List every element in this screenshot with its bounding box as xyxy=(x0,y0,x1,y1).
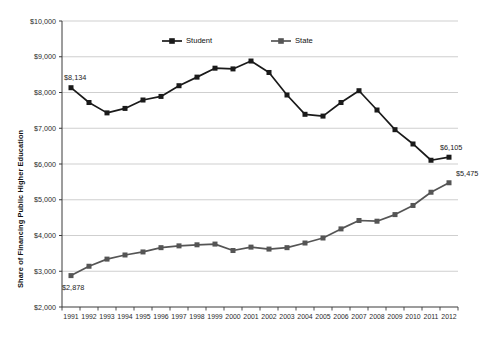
data-point-state-1991 xyxy=(69,273,74,278)
data-point-state-2005 xyxy=(321,236,326,241)
data-point-student-2011 xyxy=(429,158,434,163)
data-point-state-2006 xyxy=(339,226,344,231)
state-start-label: $2,878 xyxy=(62,283,84,292)
x-axis-ticks xyxy=(62,307,458,311)
data-point-student-1993 xyxy=(105,110,110,115)
data-series-layer xyxy=(69,59,452,279)
data-point-state-1994 xyxy=(123,252,128,257)
data-point-state-1997 xyxy=(177,243,182,248)
x-tick-label-2012: 2012 xyxy=(438,313,460,320)
data-point-student-2005 xyxy=(321,114,326,119)
legend-markers xyxy=(162,38,291,44)
legend-label-student[interactable]: Student xyxy=(186,36,212,45)
data-point-student-2004 xyxy=(303,112,308,117)
data-point-student-1995 xyxy=(141,98,146,103)
data-point-student-2001 xyxy=(249,59,254,64)
data-point-state-2012 xyxy=(447,180,452,185)
data-point-state-1998 xyxy=(195,242,200,247)
legend-marker-student xyxy=(169,38,175,44)
data-point-state-2007 xyxy=(357,218,362,223)
chart-container: Share of Financing Public Higher Educati… xyxy=(0,0,492,338)
data-point-student-2000 xyxy=(231,66,236,71)
data-point-state-1995 xyxy=(141,249,146,254)
data-point-state-2004 xyxy=(303,241,308,246)
data-point-state-2009 xyxy=(393,212,398,217)
data-point-student-1999 xyxy=(213,66,218,71)
y-tick-label-8000: $8,000 xyxy=(0,88,56,97)
legend-label-state[interactable]: State xyxy=(295,36,313,45)
data-point-student-1997 xyxy=(177,83,182,88)
data-point-student-1991 xyxy=(69,85,74,90)
data-point-student-2007 xyxy=(357,88,362,93)
data-point-state-2002 xyxy=(267,247,272,252)
state-end-label: $5,475 xyxy=(456,169,478,178)
legend-marker-state xyxy=(278,38,284,44)
data-point-state-1992 xyxy=(87,264,92,269)
data-point-state-1993 xyxy=(105,257,110,262)
data-point-state-2010 xyxy=(411,203,416,208)
data-point-state-1999 xyxy=(213,242,218,247)
data-point-state-1996 xyxy=(159,245,164,250)
data-point-student-1998 xyxy=(195,75,200,80)
data-point-state-2003 xyxy=(285,245,290,250)
y-axis-title: Share of Financing Public Higher Educati… xyxy=(16,130,25,288)
student-end-label: $6,105 xyxy=(440,143,462,152)
data-point-student-2009 xyxy=(393,127,398,132)
data-point-state-2008 xyxy=(375,219,380,224)
data-point-student-1996 xyxy=(159,94,164,99)
y-tick-label-2000: $2,000 xyxy=(0,303,56,312)
gridlines xyxy=(62,21,458,271)
footer-cutoff-text xyxy=(48,330,448,337)
data-point-student-1994 xyxy=(123,106,128,111)
data-point-student-2006 xyxy=(339,100,344,105)
y-tick-label-9000: $9,000 xyxy=(0,52,56,61)
data-point-student-2002 xyxy=(267,70,272,75)
y-tick-label-10000: $10,000 xyxy=(0,17,56,26)
data-point-student-2012 xyxy=(447,155,452,160)
data-point-state-2000 xyxy=(231,248,236,253)
y-tick-label-3000: $3,000 xyxy=(0,267,56,276)
data-point-student-1992 xyxy=(87,100,92,105)
data-point-student-2010 xyxy=(411,141,416,146)
data-point-state-2011 xyxy=(429,190,434,195)
y-tick-label-6000: $6,000 xyxy=(0,160,56,169)
data-point-state-2001 xyxy=(249,245,254,250)
data-point-student-2003 xyxy=(285,93,290,98)
y-tick-label-4000: $4,000 xyxy=(0,231,56,240)
y-tick-label-7000: $7,000 xyxy=(0,124,56,133)
y-tick-label-5000: $5,000 xyxy=(0,195,56,204)
data-point-student-2008 xyxy=(375,108,380,113)
student-start-label: $8,134 xyxy=(64,73,86,82)
